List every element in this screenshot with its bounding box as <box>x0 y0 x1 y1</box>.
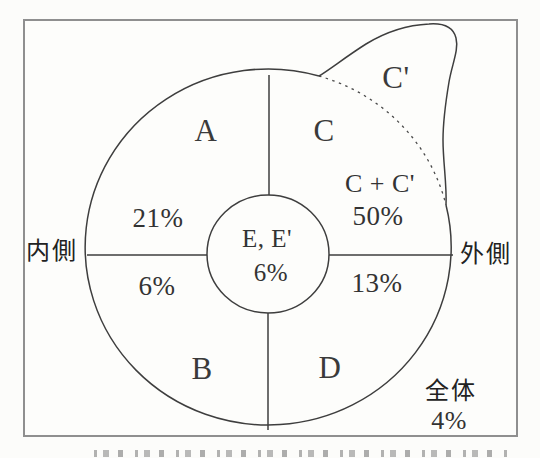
region-a-value: 21% <box>133 205 184 232</box>
figure-canvas: A C C' B D 21% 6% 13% C + C' 50% E, E' 6… <box>0 0 540 458</box>
total-value: 4% <box>431 408 467 434</box>
inner-side-label: 内側 <box>26 239 78 263</box>
center-region-value: 6% <box>254 260 288 285</box>
region-d-value: 13% <box>352 270 403 297</box>
region-c-plus-cprime-label: C + C' <box>345 171 415 197</box>
caption-cut-off-fragment <box>94 450 508 457</box>
region-b-value: 6% <box>139 273 176 300</box>
region-d-label: D <box>319 352 342 383</box>
region-c-plus-cprime-value: 50% <box>353 203 404 230</box>
total-label: 全体 <box>425 379 477 403</box>
region-c-prime-label: C' <box>382 62 409 93</box>
center-region-label: E, E' <box>242 226 292 251</box>
region-c-label: C <box>313 115 334 146</box>
outer-side-label: 外側 <box>460 242 512 266</box>
center-circle <box>207 195 329 313</box>
region-a-label: A <box>195 115 218 146</box>
region-b-label: B <box>191 353 212 384</box>
